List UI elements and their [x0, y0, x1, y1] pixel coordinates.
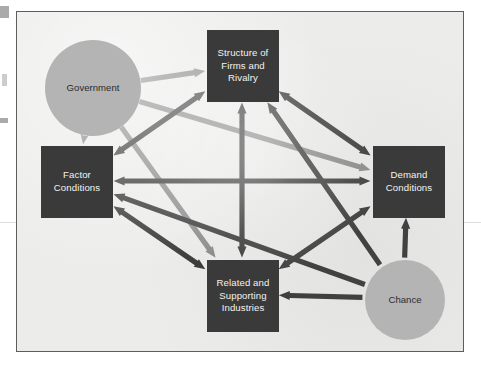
node-label: Related and Supporting Industries: [207, 277, 279, 315]
arrow-government-to-structure: [141, 68, 206, 83]
arrow-chance-to-demand: [401, 218, 410, 258]
diagram-panel: Government Structure of Firms and Rivalr…: [16, 11, 464, 352]
node-chance[interactable]: Chance: [365, 260, 445, 340]
node-label: Factor Conditions: [41, 169, 113, 194]
node-factor-conditions[interactable]: Factor Conditions: [41, 146, 113, 218]
node-related-and-supporting-industries[interactable]: Related and Supporting Industries: [207, 260, 279, 332]
node-label: Structure of Firms and Rivalry: [207, 47, 279, 85]
node-government[interactable]: Government: [45, 40, 141, 136]
node-label: Government: [64, 82, 123, 94]
arrow-chance-to-structure: [267, 102, 382, 266]
arrow-demand-to-related: [279, 206, 371, 269]
arrow-chance-to-related: [279, 291, 363, 300]
scan-artifact-mark: [0, 118, 8, 123]
arrow-government-to-related: [119, 126, 215, 258]
node-label: Demand Conditions: [373, 169, 445, 194]
node-demand-conditions[interactable]: Demand Conditions: [373, 146, 445, 218]
node-label: Chance: [385, 294, 424, 306]
node-structure-of-firms-and-rivalry[interactable]: Structure of Firms and Rivalry: [207, 30, 279, 102]
scan-artifact-mark: [2, 74, 7, 86]
screenshot-root: Government Structure of Firms and Rivalr…: [0, 0, 481, 368]
arrow-government-to-demand: [139, 99, 371, 171]
arrow-factor-to-related: [113, 206, 205, 269]
scan-artifact-mark: [0, 6, 9, 18]
